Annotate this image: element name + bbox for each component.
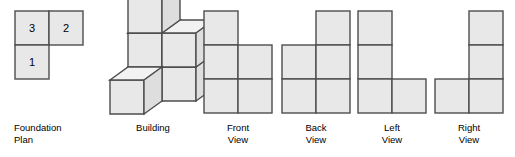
view-cell <box>316 79 350 113</box>
cube-front-face <box>110 80 144 114</box>
view-cell <box>238 79 272 113</box>
front-view-diagram <box>203 10 273 114</box>
solid-views-figure: 321 Foundation Plan Building Front View … <box>0 0 515 157</box>
building-caption: Building <box>136 122 170 134</box>
back-view-panel <box>281 10 351 114</box>
view-cell <box>204 11 238 45</box>
view-cell <box>316 45 350 79</box>
foundation-cell-number: 2 <box>63 22 69 34</box>
left-view-caption: Left View <box>382 122 402 146</box>
view-cell <box>358 11 392 45</box>
view-cell <box>282 45 316 79</box>
building-isometric-diagram <box>108 6 198 118</box>
cube-front-face <box>128 33 162 67</box>
view-cell <box>238 45 272 79</box>
view-cell <box>204 79 238 113</box>
view-cell <box>358 45 392 79</box>
left-view-diagram <box>357 10 427 114</box>
view-cell <box>316 11 350 45</box>
foundation-plan-diagram: 321 <box>14 10 98 92</box>
back-view-diagram <box>281 10 351 114</box>
view-cell <box>392 79 426 113</box>
view-cell <box>358 79 392 113</box>
left-view-panel <box>357 10 427 114</box>
view-cell <box>204 45 238 79</box>
view-cell <box>282 79 316 113</box>
view-cell <box>469 79 503 113</box>
front-view-panel <box>203 10 273 114</box>
cube-front-face <box>128 0 162 33</box>
building-cube <box>110 67 162 114</box>
view-cell <box>435 79 469 113</box>
right-view-diagram <box>434 10 504 114</box>
foundation-cell-number: 3 <box>29 22 35 34</box>
cube-front-face <box>162 33 196 67</box>
foundation-plan-caption: Foundation Plan <box>14 122 62 146</box>
view-cell <box>469 45 503 79</box>
view-cell <box>469 11 503 45</box>
foundation-cell-number: 1 <box>29 56 35 68</box>
cube-front-face <box>162 67 196 101</box>
front-view-caption: Front View <box>227 122 249 146</box>
foundation-plan-panel: 321 <box>14 10 98 92</box>
right-view-panel <box>434 10 504 114</box>
building-panel <box>108 6 198 118</box>
back-view-caption: Back View <box>305 122 326 146</box>
right-view-caption: Right View <box>458 122 480 146</box>
